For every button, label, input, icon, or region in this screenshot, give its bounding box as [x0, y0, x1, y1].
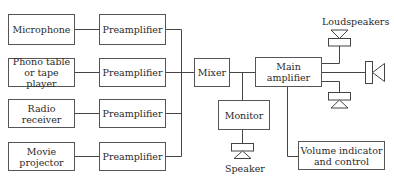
source-movie-projector: Movie projector	[8, 142, 75, 171]
source-radio: Radio receiver	[8, 99, 75, 128]
speaker-label: Speaker	[225, 163, 265, 174]
source-phono-tape: Phono table or tape player	[8, 58, 75, 87]
loudspeakers-label: Loudspeakers	[322, 16, 389, 27]
preamp-4: Preamplifier	[99, 142, 166, 171]
loudspeaker-right-icon	[366, 62, 373, 84]
monitor-box: Monitor	[218, 100, 270, 130]
preamp-3: Preamplifier	[99, 99, 166, 128]
loudspeaker-bottom-icon	[329, 93, 351, 101]
preamp-2: Preamplifier	[99, 58, 166, 87]
loudspeaker-top-icon	[329, 39, 351, 47]
monitor-speaker-icon	[232, 144, 254, 152]
preamp-1: Preamplifier	[99, 14, 166, 45]
source-microphone: Microphone	[8, 14, 75, 45]
mixer-box: Mixer	[194, 58, 230, 87]
main-amplifier-box: Main amplifier	[255, 57, 322, 87]
volume-control-box: Volume indicator and control	[298, 141, 385, 170]
